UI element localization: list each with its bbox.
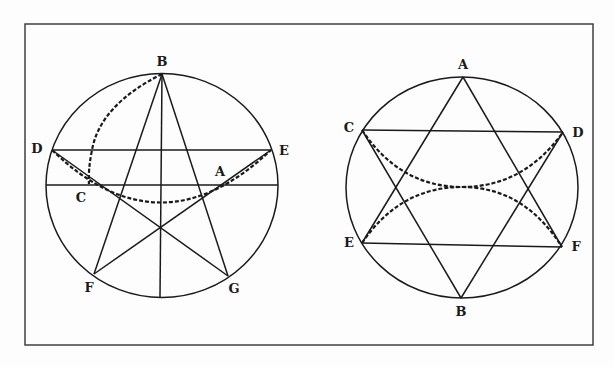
label-c: C: [344, 120, 354, 135]
dashed-arc-c-d: [362, 130, 563, 187]
label-e: E: [344, 235, 354, 250]
label-b: B: [157, 54, 168, 69]
label-g: G: [228, 281, 239, 296]
right-diagram-hexagram: A C D E F B: [344, 57, 584, 319]
line-e-f: [94, 150, 271, 274]
label-f: F: [571, 239, 581, 254]
line-a-e: [362, 77, 463, 243]
line-d-b: [461, 132, 563, 298]
chord-e-f: [362, 243, 562, 247]
line-b-f: [94, 74, 162, 274]
line-c-b: [362, 130, 461, 298]
label-e: E: [279, 143, 289, 158]
chord-c-d: [362, 130, 563, 132]
left-diagram-pentagram: B D E C A F G: [31, 54, 289, 298]
label-f: F: [84, 280, 94, 295]
label-c: C: [76, 190, 86, 205]
label-d: D: [31, 141, 42, 156]
label-d: D: [572, 125, 583, 140]
line-d-g: [52, 150, 228, 276]
label-a: A: [214, 164, 226, 179]
geometry-figure: B D E C A F G A C D E F B: [0, 0, 614, 367]
vertical-diameter: [160, 74, 162, 297]
label-a: A: [457, 57, 469, 72]
line-a-f: [463, 77, 562, 247]
label-b: B: [456, 304, 467, 319]
